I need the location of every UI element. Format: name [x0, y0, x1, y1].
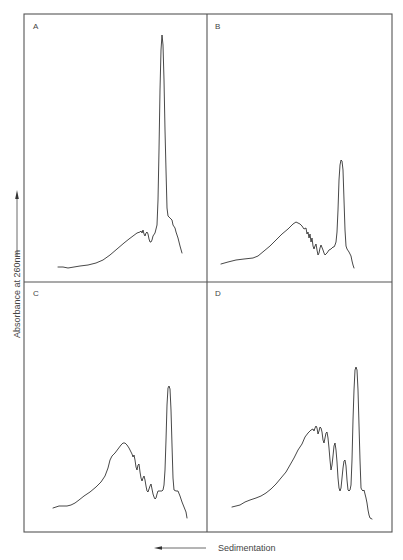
y-axis-label: Absorbance at 260nm — [12, 250, 22, 338]
arrow-left-icon — [154, 546, 162, 549]
panel-label-b: B — [215, 22, 220, 31]
panel-c-trace — [53, 386, 187, 518]
panel-a-trace — [58, 35, 182, 268]
arrow-up-icon — [15, 190, 19, 199]
panel-label-d: D — [215, 289, 221, 298]
panel-label-a: A — [33, 22, 39, 31]
y-axis-label-group: Absorbance at 260nm — [12, 250, 22, 338]
panel-label-c: C — [33, 289, 39, 298]
x-axis-label: Sedimentation — [218, 543, 276, 553]
panel-d-trace — [232, 367, 372, 519]
sedimentation-profile-figure: A B C D Absorbance at 260nm Sedimentatio… — [0, 0, 403, 560]
panel-b-trace — [221, 160, 354, 268]
